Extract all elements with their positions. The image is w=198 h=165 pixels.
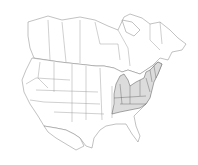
range-map: [0, 0, 198, 165]
